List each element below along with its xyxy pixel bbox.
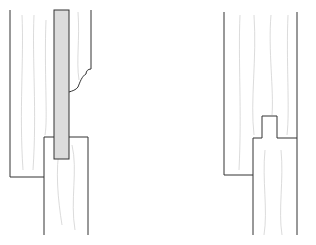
right-joint <box>224 12 297 235</box>
upper-board-outline <box>224 12 253 175</box>
left-joint <box>10 10 91 235</box>
panel <box>54 10 69 159</box>
grain-lines <box>239 15 288 235</box>
joint-diagram <box>0 0 316 245</box>
moulding-outline <box>69 10 91 92</box>
grain-lines <box>21 12 79 230</box>
tongue-outline <box>253 116 297 235</box>
stile-outline <box>10 10 44 177</box>
